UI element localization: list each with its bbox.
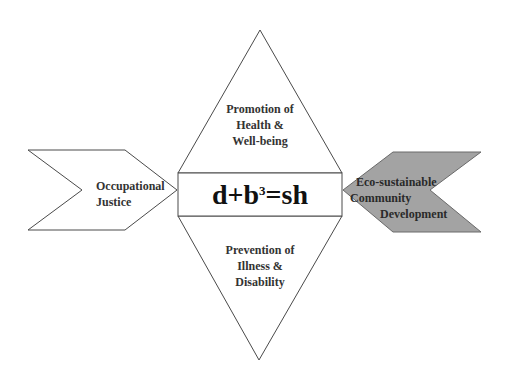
left-label-line-1: Occupational: [96, 178, 165, 194]
formula-text: d+b3=sh: [178, 174, 342, 216]
right-label-line-3: Development: [380, 206, 447, 222]
formula-base: d+b: [212, 179, 259, 211]
bottom-label-line-3: Disability: [200, 274, 320, 290]
right-label-line-2: Community: [350, 190, 447, 206]
bottom-label-line-2: Illness &: [200, 258, 320, 274]
top-triangle-label: Promotion of Health & Well-being: [200, 101, 320, 149]
bottom-label-line-1: Prevention of: [200, 242, 320, 258]
bottom-triangle-label: Prevention of Illness & Disability: [200, 242, 320, 290]
left-chevron-label: Occupational Justice: [96, 178, 165, 210]
right-label-line-1: Eco-sustainable: [356, 174, 447, 190]
left-label-line-2: Justice: [96, 194, 165, 210]
top-label-line-2: Health &: [200, 117, 320, 133]
top-label-line-3: Well-being: [200, 133, 320, 149]
right-chevron-label: Eco-sustainable Community Development: [356, 174, 447, 222]
formula-rest: =sh: [266, 179, 308, 211]
top-label-line-1: Promotion of: [200, 101, 320, 117]
formula-exponent: 3: [259, 183, 266, 199]
